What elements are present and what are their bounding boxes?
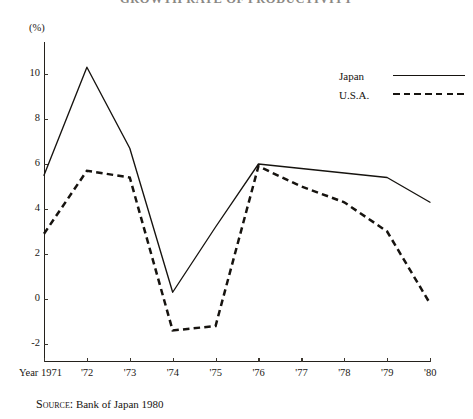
plot-area: [0, 0, 473, 419]
dashed-line-swatch: [393, 89, 465, 101]
source-note: Source: Bank of Japan 1980: [36, 397, 164, 412]
legend-label-usa: U.S.A.: [339, 89, 387, 101]
series-line-usa: [44, 166, 430, 330]
legend-label-japan: Japan: [339, 70, 387, 82]
chart-container: GROWTH RATE OF PRODUCTIVITY (%) 1086420-…: [0, 0, 473, 419]
source-text: Bank of Japan 1980: [76, 398, 164, 410]
legend-item-japan: Japan: [339, 66, 465, 85]
chart-legend: Japan U.S.A.: [339, 66, 465, 104]
solid-line-swatch: [393, 70, 465, 82]
legend-item-usa: U.S.A.: [339, 85, 465, 104]
source-prefix: Source:: [36, 397, 73, 411]
